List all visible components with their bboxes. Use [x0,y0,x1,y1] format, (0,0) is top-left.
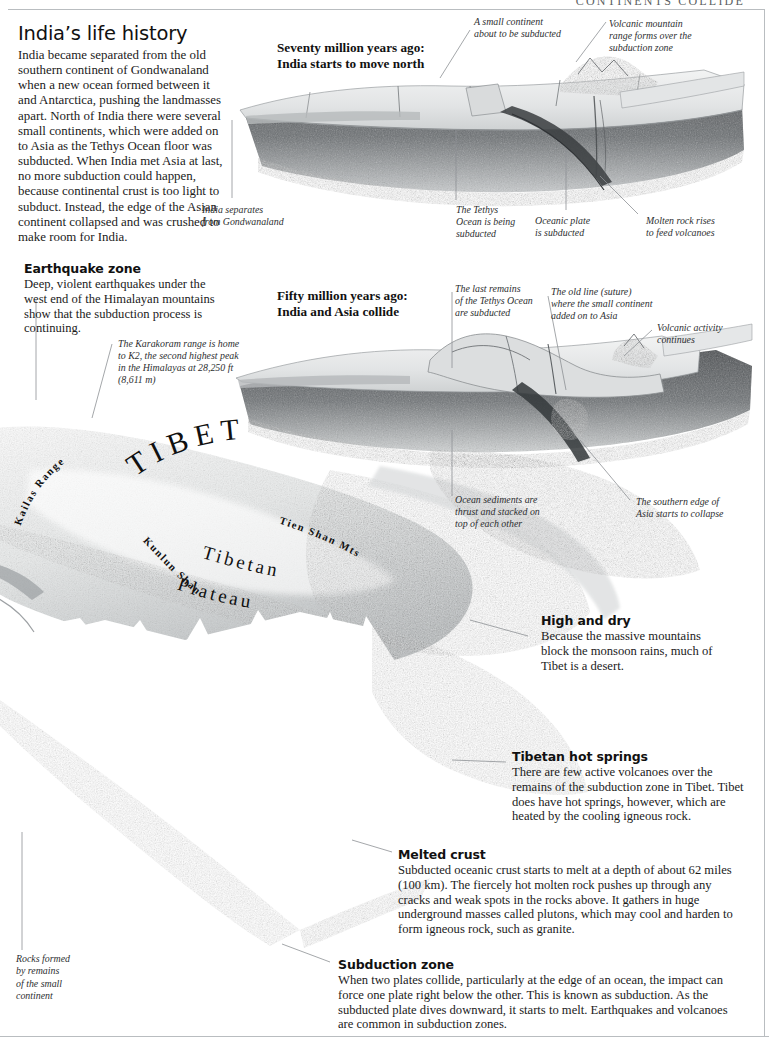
high-and-dry-body: Because the massive mountains block the … [541,629,721,673]
annotation-molten-rock: Molten rock rises to feed volcanoes [646,215,766,239]
intro-block: India’s life history India became separa… [18,22,230,245]
subduction-zone-body: When two plates collide, particularly at… [338,973,740,1032]
annotation-small-continent: A small continent about to be subducted [474,16,594,40]
high-and-dry-block: High and dry Because the massive mountai… [541,614,721,673]
earthquake-zone-body: Deep, violent earthquakes under the west… [24,277,224,336]
caption-rocks-formed: Rocks formed by remains of the small con… [16,953,112,1003]
melted-crust-block: Melted crust Subducted oceanic crust sta… [398,848,740,937]
subduction-zone-block: Subduction zone When two plates collide,… [338,958,740,1032]
earthquake-zone-title: Earthquake zone [24,262,224,276]
hot-springs-title: Tibetan hot springs [512,750,744,764]
stage-two-heading: Fifty million years ago: India and Asia … [277,288,457,319]
stage-two-heading-line2: India and Asia collide [277,304,457,320]
high-and-dry-title: High and dry [541,614,721,628]
annotation-oceanic-plate: Oceanic plate is subducted [535,215,625,239]
annotation-volcanic-activity: Volcanic activity continues [657,322,762,346]
melted-crust-body: Subducted oceanic crust starts to melt a… [398,863,740,936]
stage-one-heading-line2: India starts to move north [277,56,457,72]
leader-karakoram [92,344,112,418]
annotation-volcanic-range: Volcanic mountain range forms over the s… [609,18,729,54]
stage-one-heading: Seventy million years ago: India starts … [277,40,457,71]
melted-crust-title: Melted crust [398,848,740,862]
stage-two-heading-line1: Fifty million years ago: [277,288,457,304]
stage-one-block-diagram [240,56,744,206]
annotation-last-remains: The last remains of the Tethys Ocean are… [455,283,565,319]
annotation-tethys-ocean: The Tethys Ocean is being subducted [456,204,536,240]
annotation-ocean-sediments: Ocean sediments are thrust and stacked o… [455,494,567,530]
stage-one-heading-line1: Seventy million years ago: [277,40,457,56]
hot-springs-block: Tibetan hot springs There are few active… [512,750,744,824]
subduction-zone-title: Subduction zone [338,958,740,972]
annotation-karakoram: The Karakoram range is home to K2, the s… [118,338,246,386]
earthquake-zone-block: Earthquake zone Deep, violent earthquake… [24,262,224,336]
page-title: India’s life history [18,22,230,45]
annotation-old-suture: The old line (suture) where the small co… [551,286,686,322]
intro-body: India became separated from the old sout… [18,48,230,245]
hot-springs-body: There are few active volcanoes over the … [512,765,744,824]
page-canvas: CONTINENTS COLLIDE [0,0,769,1048]
annotation-india-separates: India separates from Gondwanaland [202,204,322,228]
annotation-southern-edge: The southern edge of Asia starts to coll… [636,496,756,520]
